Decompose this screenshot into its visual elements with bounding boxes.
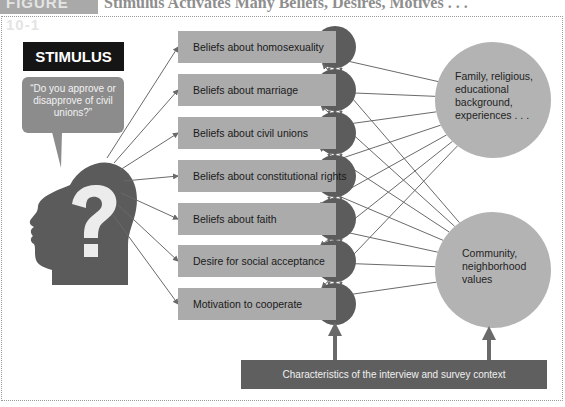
stimulus-arrow xyxy=(120,133,178,170)
consideration-box: Beliefs about constitutional rights xyxy=(178,160,336,192)
head-icon xyxy=(30,162,137,285)
consideration-box: Beliefs about homosexuality xyxy=(178,31,336,63)
consideration-box: Motivation to cooperate xyxy=(178,288,336,320)
consideration-box: Beliefs about civil unions xyxy=(178,117,336,149)
consideration-box: Beliefs about marriage xyxy=(178,74,336,106)
speech-bubble-tail xyxy=(52,132,62,168)
context-bar: Characteristics of the interview and sur… xyxy=(241,360,547,389)
stimulus-question-bubble: “Do you approve or disapprove of civil u… xyxy=(22,77,124,133)
consideration-box: Desire for social acceptance xyxy=(178,245,336,277)
context-arrowhead-community xyxy=(482,326,496,340)
consideration-box: Beliefs about faith xyxy=(178,203,336,235)
influence-label-community: Community, neighborhood values xyxy=(462,247,532,286)
influence-label-family: Family, religious, educational backgroun… xyxy=(455,70,535,122)
stimulus-label: STIMULUS xyxy=(23,42,124,71)
stimulus-arrow xyxy=(124,176,178,181)
